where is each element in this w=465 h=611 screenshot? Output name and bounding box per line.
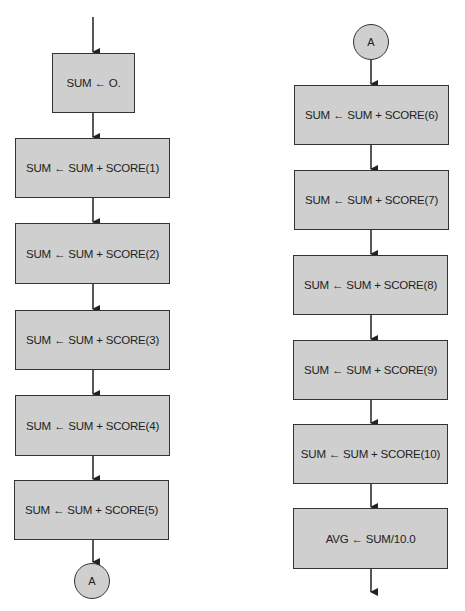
process-box-score-3: SUM ← SUM + SCORE(3) bbox=[15, 310, 170, 370]
process-box-score-1: SUM ← SUM + SCORE(1) bbox=[15, 138, 170, 198]
process-box-score-2: SUM ← SUM + SCORE(2) bbox=[15, 223, 170, 284]
off-page-connector-in: A bbox=[353, 24, 389, 60]
process-label: SUM ← SUM + SCORE(7) bbox=[305, 194, 438, 206]
off-page-connector-out: A bbox=[74, 563, 110, 599]
process-label: AVG ← SUM/10.0 bbox=[326, 533, 416, 545]
process-label: SUM ← SUM + SCORE(2) bbox=[26, 248, 159, 260]
process-label: SUM ← SUM + SCORE(4) bbox=[26, 420, 159, 432]
process-box-init-sum: SUM ← O. bbox=[52, 53, 135, 113]
process-box-score-8: SUM ← SUM + SCORE(8) bbox=[293, 255, 448, 315]
process-label: SUM ← SUM + SCORE(1) bbox=[26, 162, 159, 174]
process-box-score-7: SUM ← SUM + SCORE(7) bbox=[294, 170, 449, 230]
process-box-score-6: SUM ← SUM + SCORE(6) bbox=[294, 85, 449, 145]
process-label: SUM ← SUM + SCORE(9) bbox=[304, 364, 437, 376]
process-label: SUM ← SUM + SCORE(10) bbox=[301, 448, 440, 460]
process-label: SUM ← SUM + SCORE(8) bbox=[304, 279, 437, 291]
connector-label: A bbox=[367, 36, 374, 48]
process-box-score-5: SUM ← SUM + SCORE(5) bbox=[14, 480, 169, 540]
process-box-score-10: SUM ← SUM + SCORE(10) bbox=[293, 424, 448, 484]
process-label: SUM ← SUM + SCORE(3) bbox=[26, 334, 159, 346]
process-box-average: AVG ← SUM/10.0 bbox=[293, 508, 448, 569]
process-label: SUM ← SUM + SCORE(6) bbox=[305, 109, 438, 121]
process-label: SUM ← SUM + SCORE(5) bbox=[25, 504, 158, 516]
process-label: SUM ← O. bbox=[67, 77, 121, 89]
process-box-score-4: SUM ← SUM + SCORE(4) bbox=[15, 395, 170, 456]
connector-label: A bbox=[88, 575, 95, 587]
process-box-score-9: SUM ← SUM + SCORE(9) bbox=[293, 340, 448, 400]
